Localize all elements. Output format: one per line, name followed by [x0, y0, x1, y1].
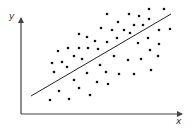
data-point [49, 99, 52, 102]
data-point [100, 27, 103, 30]
data-point [87, 47, 90, 50]
data-point [150, 69, 153, 72]
scatter-chart: y x [0, 0, 196, 132]
data-point [86, 72, 89, 75]
data-point [96, 81, 99, 84]
data-point [158, 29, 161, 32]
data-point [67, 47, 70, 50]
data-point [138, 15, 141, 18]
data-point [86, 36, 89, 39]
data-point [142, 24, 145, 27]
data-point [51, 62, 54, 65]
data-point [149, 49, 152, 52]
data-point [73, 79, 76, 82]
data-point [140, 58, 143, 61]
data-point [137, 42, 140, 45]
data-point [97, 48, 100, 51]
data-point [94, 40, 97, 43]
data-point [127, 59, 130, 62]
data-point [66, 66, 69, 69]
data-point [58, 90, 61, 93]
data-point [81, 58, 84, 61]
data-point [57, 50, 60, 53]
data-point [111, 29, 114, 32]
data-point [106, 41, 109, 44]
data-point [107, 83, 110, 86]
data-point [157, 55, 160, 58]
data-point [163, 8, 166, 11]
data-point [147, 37, 150, 40]
data-point [89, 94, 92, 97]
y-axis-label: y [8, 11, 15, 21]
data-point [128, 13, 131, 16]
data-point [116, 37, 119, 40]
data-point [123, 29, 126, 32]
data-point [158, 43, 161, 46]
data-point [118, 73, 121, 76]
data-point [117, 21, 120, 24]
data-points [49, 8, 172, 102]
data-point [73, 55, 76, 58]
data-point [133, 73, 136, 76]
data-point [129, 32, 132, 35]
data-point [53, 71, 56, 74]
data-point [78, 33, 81, 36]
data-point [68, 98, 71, 101]
data-point [133, 24, 136, 27]
data-point [105, 71, 108, 74]
data-point [148, 18, 151, 21]
data-point [148, 8, 151, 11]
regression-line [31, 14, 171, 96]
data-point [106, 13, 109, 16]
data-point [169, 28, 172, 31]
x-axis-label: x [175, 116, 182, 126]
data-point [61, 61, 64, 64]
data-point [78, 47, 81, 50]
data-point [99, 64, 102, 67]
data-point [78, 87, 81, 90]
data-point [113, 55, 116, 58]
